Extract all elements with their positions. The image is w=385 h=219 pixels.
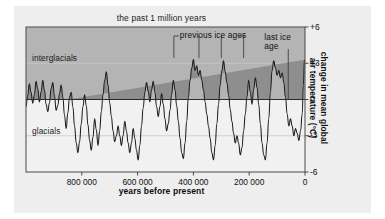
glacials-label: glacials [32, 126, 60, 136]
x-tick-label: 200 000 [219, 177, 279, 187]
y-tick-label: +3 [310, 58, 320, 68]
y-axis-title: change in mean global air temperature (°… [303, 22, 329, 174]
chart-stage: the past 1 million years interglacials g… [14, 6, 371, 213]
x-tick-label: 0 [275, 177, 335, 187]
interglacials-label: interglacials [32, 53, 77, 63]
figure-panel: the past 1 million years interglacials g… [14, 6, 371, 213]
y-axis-title-line1: change in mean global [319, 52, 329, 144]
x-axis-title: years before present [14, 186, 309, 196]
y-tick-label: -3 [310, 130, 317, 140]
y-tick-label: -6 [310, 167, 317, 177]
x-tick-label: 600 000 [108, 177, 168, 187]
x-tick-label: 400 000 [163, 177, 223, 187]
y-tick-label: +6 [310, 22, 320, 32]
previous-ice-ages-label: previous ice ages [180, 30, 246, 40]
last-ice-age-label-line2: age [264, 41, 278, 51]
x-tick-label: 800 000 [52, 177, 112, 187]
y-tick-label: 0 [310, 94, 315, 104]
